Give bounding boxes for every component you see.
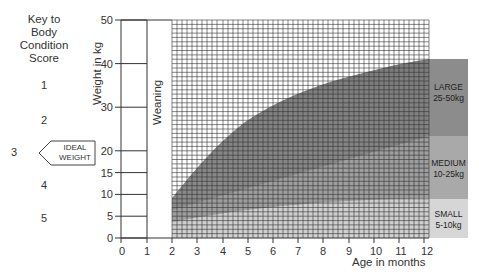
- small-label: SMALL: [429, 209, 468, 220]
- svg-text:3: 3: [194, 245, 200, 257]
- small-range: 5-10kg: [429, 220, 468, 231]
- svg-text:5: 5: [245, 245, 251, 257]
- growth-envelope: [172, 40, 429, 240]
- svg-text:15: 15: [101, 167, 113, 179]
- svg-text:0: 0: [107, 232, 113, 244]
- large-label: LARGE: [429, 82, 468, 93]
- large-range: 25-50kg: [429, 93, 468, 104]
- weaning-label: Weaning: [151, 65, 165, 125]
- x-axis-label: Age in months: [352, 256, 426, 268]
- growth-chart: 50 40 30 20 15 10 5 0 012 345 678 91011 …: [0, 0, 479, 280]
- svg-text:0: 0: [119, 245, 125, 257]
- y-axis-label: Weight in kg: [91, 0, 105, 105]
- svg-text:1: 1: [144, 245, 150, 257]
- medium-range: 10-25kg: [429, 169, 468, 180]
- svg-text:7: 7: [295, 245, 301, 257]
- small-band-label: SMALL 5-10kg: [429, 209, 468, 231]
- svg-text:20: 20: [101, 145, 113, 157]
- svg-text:8: 8: [320, 245, 326, 257]
- svg-text:2: 2: [169, 245, 175, 257]
- svg-text:10: 10: [101, 188, 113, 200]
- svg-text:5: 5: [107, 210, 113, 222]
- large-band-label: LARGE 25-50kg: [429, 82, 468, 104]
- svg-text:6: 6: [270, 245, 276, 257]
- svg-text:4: 4: [220, 245, 226, 257]
- medium-label: MEDIUM: [429, 158, 468, 169]
- medium-band-label: MEDIUM 10-25kg: [429, 158, 468, 180]
